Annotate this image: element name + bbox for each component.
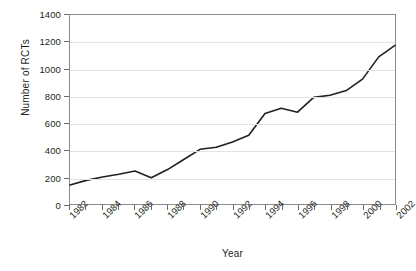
y-tick-label: 400 xyxy=(45,145,61,156)
x-tick-mark xyxy=(216,205,217,210)
y-tick-label: 800 xyxy=(45,90,61,101)
x-tick-mark xyxy=(183,205,184,210)
x-tick-mark xyxy=(151,205,152,210)
plot-area xyxy=(69,14,396,205)
gridline-1200 xyxy=(70,42,395,43)
chart-container: Number of RCTs 0200400600800100012001400… xyxy=(0,0,416,271)
data-line-series xyxy=(70,15,395,204)
gridline-400 xyxy=(70,151,395,152)
y-tick-label: 200 xyxy=(45,172,61,183)
gridline-600 xyxy=(70,124,395,125)
rct-count-line xyxy=(70,45,395,185)
y-axis: 0200400600800100012001400 xyxy=(0,0,69,205)
x-tick-mark xyxy=(347,205,348,210)
x-tick-mark xyxy=(314,205,315,210)
x-tick-mark xyxy=(282,205,283,210)
y-tick-label: 1400 xyxy=(39,9,61,20)
x-tick-mark xyxy=(118,205,119,210)
y-tick-label: 600 xyxy=(45,118,61,129)
gridline-200 xyxy=(70,179,395,180)
x-tick-mark xyxy=(249,205,250,210)
x-tick-label: 2002 xyxy=(394,198,416,221)
x-axis: 1982198419861988199019921994199619982000… xyxy=(69,205,396,271)
x-axis-title: Year xyxy=(69,248,396,259)
x-tick-mark xyxy=(380,205,381,210)
y-tick-label: 0 xyxy=(56,200,61,211)
y-tick-label: 1200 xyxy=(39,36,61,47)
gridline-1000 xyxy=(70,70,395,71)
gridline-800 xyxy=(70,97,395,98)
x-tick-mark xyxy=(85,205,86,210)
y-tick-label: 1000 xyxy=(39,63,61,74)
